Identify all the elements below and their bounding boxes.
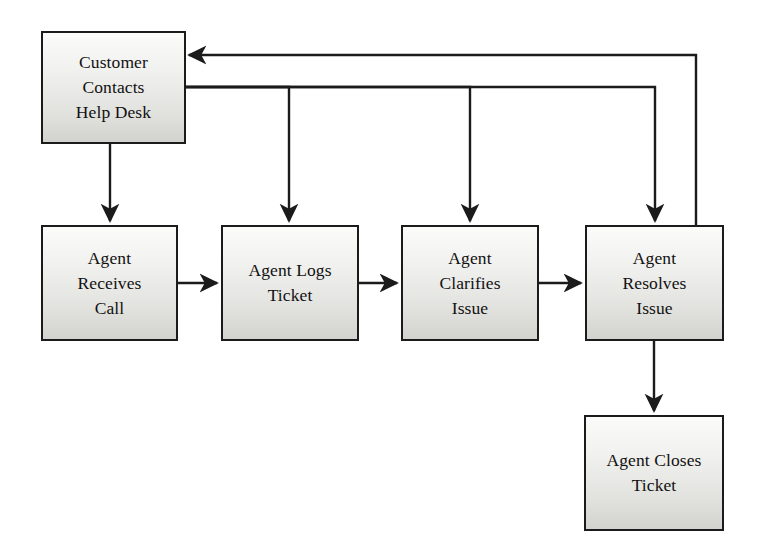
node-agent-receives-call[interactable]: Agent Receives Call	[41, 225, 178, 341]
node-label: Customer Contacts Help Desk	[72, 50, 155, 125]
node-label: Agent Clarifies Issue	[435, 246, 504, 321]
edge-edge-customer-to-clarifies	[186, 87, 470, 221]
node-agent-closes-ticket[interactable]: Agent Closes Ticket	[584, 415, 724, 531]
node-label: Agent Resolves Issue	[619, 246, 691, 321]
edge-edge-customer-to-resolves	[186, 87, 655, 221]
node-agent-logs-ticket[interactable]: Agent Logs Ticket	[221, 225, 359, 341]
edge-edge-resolves-back-to-customer	[189, 55, 696, 225]
flowchart-canvas: Customer Contacts Help Desk Agent Receiv…	[0, 0, 762, 557]
node-agent-resolves-issue[interactable]: Agent Resolves Issue	[585, 225, 724, 341]
node-agent-clarifies-issue[interactable]: Agent Clarifies Issue	[401, 225, 539, 341]
node-label: Agent Logs Ticket	[244, 258, 335, 308]
node-label: Agent Closes Ticket	[602, 448, 705, 498]
edge-edge-customer-to-logs	[186, 87, 289, 221]
node-customer-contacts-help-desk[interactable]: Customer Contacts Help Desk	[41, 31, 186, 144]
node-label: Agent Receives Call	[74, 246, 146, 321]
